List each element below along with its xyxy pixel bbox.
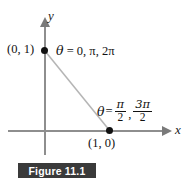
theta-values-top: 0, π, 2π — [77, 44, 115, 58]
fraction-1-denominator: 2 — [116, 112, 126, 124]
fraction-pi-over-2: π 2 — [115, 99, 127, 123]
fraction-3pi-over-2: 3π 2 — [133, 99, 152, 123]
point-0-1-label: (0, 1) — [7, 42, 34, 57]
theta-annotation-top: θ = 0, π, 2π — [56, 43, 114, 59]
equals-sign-bottom: = — [106, 104, 113, 119]
theta-symbol-bottom: θ — [97, 104, 105, 119]
equals-sign-top: = — [67, 44, 74, 58]
fraction-1-numerator: π — [115, 99, 127, 112]
fraction-2-denominator: 2 — [138, 112, 148, 124]
figure-caption-bar: Figure 11.1 — [18, 163, 96, 178]
theta-symbol-top: θ — [56, 43, 64, 58]
segment-layer — [0, 0, 192, 190]
fraction-separator: , — [128, 107, 131, 123]
point-0-1-dot — [41, 47, 48, 54]
point-1-0-dot — [106, 127, 113, 134]
figure-panel: x y (0, 1) (1, 0) θ = 0, π, 2π θ = π 2 ,… — [0, 0, 192, 190]
theta-annotation-bottom: θ = π 2 , 3π 2 — [97, 99, 153, 123]
fraction-2-numerator: 3π — [133, 99, 152, 112]
point-1-0-label: (1, 0) — [88, 136, 115, 151]
figure-caption-label: Figure 11.1 — [18, 163, 96, 178]
